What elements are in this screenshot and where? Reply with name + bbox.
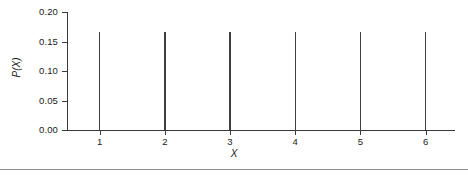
y-tick-label: 0.15 [24,37,58,47]
bar [99,32,100,130]
y-tick-label: 0.00 [24,125,58,135]
bar [164,32,165,130]
y-tick-mark [62,130,67,131]
bar [229,32,230,130]
x-tick-mark [230,131,231,135]
x-tick-label: 3 [220,137,240,147]
y-tick-mark [62,101,67,102]
y-tick-label: 0.10 [24,66,58,76]
y-tick-mark [62,12,67,13]
x-axis-title: X [0,148,468,159]
bottom-divider [0,169,468,170]
plot-area: 0.000.050.100.150.20 123456 P(X) X [0,0,468,175]
bar [295,32,296,130]
x-tick-mark [100,131,101,135]
y-tick-label: 0.05 [24,96,58,106]
figure: 0.000.050.100.150.20 123456 P(X) X [0,0,468,175]
bar [425,32,426,130]
x-tick-label: 1 [90,137,110,147]
x-tick-label: 5 [350,137,370,147]
x-tick-mark [360,131,361,135]
x-tick-mark [165,131,166,135]
x-tick-label: 6 [416,137,436,147]
x-tick-label: 4 [285,137,305,147]
y-tick-mark [62,42,67,43]
x-axis-line [67,130,455,131]
x-tick-mark [426,131,427,135]
y-tick-label: 0.20 [24,7,58,17]
y-tick-mark [62,71,67,72]
x-tick-label: 2 [155,137,175,147]
y-axis-line [67,12,68,131]
y-axis-title: P(X) [11,38,22,98]
bar [360,32,361,130]
x-tick-mark [295,131,296,135]
